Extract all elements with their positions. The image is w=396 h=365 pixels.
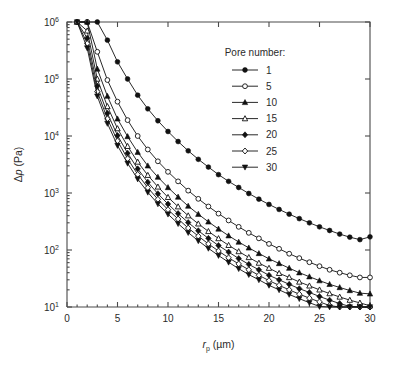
data-point <box>176 179 181 184</box>
x-tick-label-25: 25 <box>314 313 326 324</box>
chart-figure: 051015202530 101102103104105106 Pore num… <box>0 0 396 365</box>
x-tick-label-5: 5 <box>115 313 121 324</box>
data-point <box>156 159 161 164</box>
data-point <box>206 165 211 170</box>
data-point <box>287 212 292 217</box>
data-point <box>216 172 221 177</box>
data-point <box>307 220 312 225</box>
data-point <box>145 106 150 111</box>
data-point <box>125 77 130 82</box>
data-point <box>337 232 342 237</box>
legend-marker-circle-open <box>243 84 248 89</box>
data-point <box>196 196 201 201</box>
data-point <box>135 93 140 98</box>
data-point <box>368 275 373 280</box>
legend-label-25: 25 <box>266 146 278 157</box>
data-point <box>246 191 251 196</box>
data-point <box>115 59 120 64</box>
data-point <box>156 118 161 123</box>
data-point <box>176 139 181 144</box>
data-point <box>105 38 110 43</box>
y-axis-title: Δp (Pa) <box>12 147 24 183</box>
data-point <box>317 224 322 229</box>
legend-label-5: 5 <box>266 81 272 92</box>
legend-label-10: 10 <box>266 97 278 108</box>
data-point <box>297 256 302 261</box>
data-point <box>257 197 262 202</box>
data-point <box>125 118 130 123</box>
data-point <box>277 246 282 251</box>
legend-marker-circle-filled <box>243 68 248 73</box>
y-axis-title-text: Δp (Pa) <box>12 147 24 183</box>
x-tick-label-30: 30 <box>364 313 376 324</box>
legend-label-1: 1 <box>266 65 272 76</box>
data-point <box>277 207 282 212</box>
legend-label-20: 20 <box>266 129 278 140</box>
data-point <box>186 148 191 153</box>
data-point <box>226 218 231 223</box>
x-tick-label-10: 10 <box>162 313 174 324</box>
x-tick-label-20: 20 <box>263 313 275 324</box>
data-point <box>307 260 312 265</box>
data-point <box>297 216 302 221</box>
pressure-drop-vs-pore-radius-chart: 051015202530 101102103104105106 Pore num… <box>0 0 396 365</box>
data-point <box>115 99 120 104</box>
data-point <box>216 211 221 216</box>
data-point <box>287 251 292 256</box>
data-point <box>226 179 231 184</box>
data-point <box>246 230 251 235</box>
data-point <box>196 157 201 162</box>
data-point <box>145 147 150 152</box>
data-point <box>347 273 352 278</box>
data-point <box>236 185 241 190</box>
data-point <box>327 267 332 272</box>
x-tick-label-0: 0 <box>64 313 70 324</box>
data-point <box>267 241 272 246</box>
data-point <box>327 228 332 233</box>
legend-label-15: 15 <box>266 113 278 124</box>
x-tick-label-15: 15 <box>213 313 225 324</box>
data-point <box>166 169 171 174</box>
legend-title: Pore number: <box>225 47 286 58</box>
data-point <box>337 270 342 275</box>
data-point <box>347 235 352 240</box>
data-point <box>317 264 322 269</box>
chart-background <box>0 0 396 365</box>
legend-label-30: 30 <box>266 162 278 173</box>
data-point <box>95 49 100 54</box>
data-point <box>105 78 110 83</box>
data-point <box>368 234 373 239</box>
data-point <box>135 134 140 139</box>
data-point <box>236 224 241 229</box>
data-point <box>166 129 171 134</box>
data-point <box>358 237 363 242</box>
data-point <box>257 236 262 241</box>
data-point <box>186 188 191 193</box>
data-point <box>206 204 211 209</box>
data-point <box>267 202 272 207</box>
data-point <box>358 275 363 280</box>
data-point <box>95 20 100 25</box>
